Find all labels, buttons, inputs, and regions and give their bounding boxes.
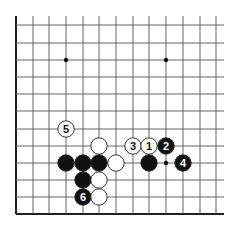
black-stone: 6 [75, 189, 91, 205]
move-number-label: 6 [80, 191, 86, 203]
black-stone [75, 172, 91, 188]
move-number-label: 1 [146, 140, 152, 152]
star-point-icon [64, 58, 68, 62]
white-stone: 5 [58, 121, 74, 137]
white-stone [91, 189, 107, 205]
move-number-label: 5 [63, 123, 69, 135]
black-stone: 2 [158, 138, 174, 154]
star-point-icon [164, 161, 168, 165]
white-stone: 1 [141, 138, 157, 154]
black-stone [141, 155, 157, 171]
black-stone [91, 155, 107, 171]
move-number-label: 3 [130, 140, 136, 152]
move-number-label: 2 [163, 140, 169, 152]
black-stone: 4 [175, 155, 191, 171]
black-stone [75, 155, 91, 171]
white-stone [91, 172, 107, 188]
white-stone: 3 [125, 138, 141, 154]
white-stone [108, 155, 124, 171]
move-number-label: 4 [180, 157, 187, 169]
white-stone [91, 138, 107, 154]
star-point-icon [164, 58, 168, 62]
grid-lines [16, 16, 224, 214]
go-board: 531246 [0, 0, 240, 230]
black-stone [58, 155, 74, 171]
